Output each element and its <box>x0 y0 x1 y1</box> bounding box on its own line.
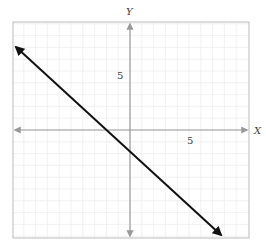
y-axis-label: Y <box>126 6 134 17</box>
x-tick-label-5: 5 <box>187 135 193 146</box>
x-axis-label: X <box>253 125 262 136</box>
coordinate-plane: X Y 5 5 <box>0 0 266 245</box>
y-tick-label-5: 5 <box>117 70 123 81</box>
